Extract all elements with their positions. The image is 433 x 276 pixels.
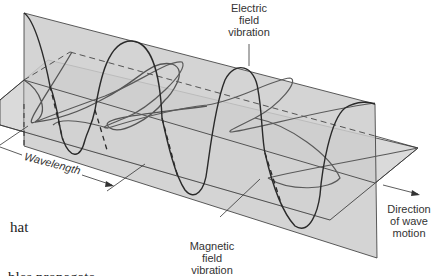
text-line: bles propagate bbox=[0, 269, 96, 276]
label-line: Electric bbox=[220, 2, 278, 14]
magnetic-field-label: Magnetic field vibration bbox=[182, 240, 242, 276]
label-line: vibration bbox=[220, 26, 278, 38]
arrow-head-icon bbox=[411, 190, 420, 196]
wavelength-line-left bbox=[0, 147, 22, 155]
arrow-head-icon bbox=[105, 181, 114, 187]
label-line: vibration bbox=[182, 264, 242, 276]
body-text: hat bles propagate uiring no ma- rged pa… bbox=[0, 186, 96, 276]
label-line: motion bbox=[384, 227, 433, 239]
label-line: Direction bbox=[384, 203, 433, 215]
label-line: field bbox=[220, 14, 278, 26]
text-line: hat bbox=[0, 219, 96, 236]
label-line: of wave bbox=[384, 215, 433, 227]
label-line: field bbox=[182, 252, 242, 264]
electric-field-label: Electric field vibration bbox=[220, 2, 278, 38]
direction-label: Direction of wave motion bbox=[384, 203, 433, 239]
label-line: Magnetic bbox=[182, 240, 242, 252]
